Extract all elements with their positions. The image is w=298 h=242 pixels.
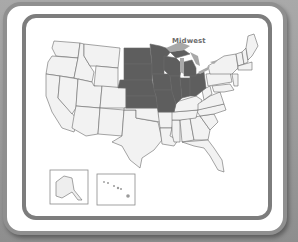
hawaii-inset	[97, 174, 135, 205]
region-label-midwest: Midwest	[172, 37, 206, 45]
us-map	[0, 0, 298, 242]
